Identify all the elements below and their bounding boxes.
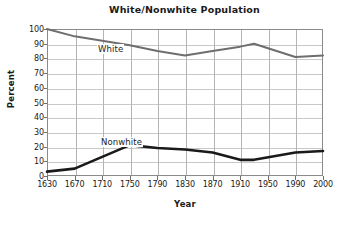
x-axis-tick-label: 1830 (175, 180, 195, 189)
x-axis-title: Year (47, 199, 323, 209)
y-axis-tick-label: 60 (14, 83, 44, 92)
x-axis-tick-label: 1670 (65, 180, 85, 189)
x-axis-tick-label: 1790 (148, 180, 168, 189)
series-label-nonwhite: Nonwhite (100, 137, 143, 147)
series-label-white: White (97, 44, 124, 54)
y-axis-tick-labels: 0102030405060708090100 (8, 29, 44, 176)
y-axis-tick-label: 80 (14, 54, 44, 63)
chart-figure: White/Nonwhite Population Percent 010203… (0, 0, 343, 227)
x-axis-tick-label: 1990 (286, 180, 306, 189)
x-axis-tick-label: 1870 (203, 180, 223, 189)
x-axis-tick-labels: 1630167017101750179018301870191019501990… (47, 180, 323, 194)
y-axis-tick-label: 40 (14, 113, 44, 122)
series-line-nonwhite (47, 145, 323, 171)
chart-title: White/Nonwhite Population (0, 4, 343, 15)
x-axis-tick-label: 1910 (230, 180, 250, 189)
series-lines (47, 29, 323, 176)
y-axis-tick-label: 30 (14, 127, 44, 136)
series-line-white (47, 29, 323, 57)
y-axis-tick-label: 70 (14, 69, 44, 78)
x-axis-tick-label: 1750 (120, 180, 140, 189)
x-axis-tick-label: 1950 (258, 180, 278, 189)
x-axis-tick-label: 2000 (313, 180, 333, 189)
y-axis-tick-label: 90 (14, 39, 44, 48)
x-axis-tick-label: 1630 (37, 180, 57, 189)
y-axis-tick-label: 10 (14, 157, 44, 166)
x-axis-tick-label: 1710 (92, 180, 112, 189)
y-axis-tick-label: 100 (14, 25, 44, 34)
y-axis-tick-label: 50 (14, 98, 44, 107)
y-axis-tick-label: 20 (14, 142, 44, 151)
